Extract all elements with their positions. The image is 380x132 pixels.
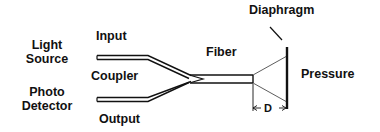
photo-detector-label: Photo Detector — [16, 85, 78, 113]
light-cone — [253, 56, 287, 102]
light-source-label: Light Source — [21, 38, 73, 66]
gap-d-label: D — [264, 101, 272, 115]
pressure-label: Pressure — [301, 67, 355, 81]
output-label: Output — [99, 112, 140, 126]
photo-detector-line1: Photo — [16, 85, 78, 99]
main-fiber — [190, 75, 253, 83]
fiber-label: Fiber — [206, 45, 237, 59]
output-fiber — [97, 82, 191, 102]
light-source-line1: Light — [21, 38, 73, 52]
light-source-line2: Source — [21, 52, 73, 66]
photo-detector-line2: Detector — [16, 99, 78, 113]
diaphragm-label: Diaphragm — [249, 3, 314, 17]
sensor-diagram: Light Source Photo Detector Input Couple… — [0, 0, 380, 132]
diaphragm-leader — [270, 27, 282, 40]
input-label: Input — [96, 29, 127, 43]
coupler-label: Coupler — [91, 69, 138, 83]
